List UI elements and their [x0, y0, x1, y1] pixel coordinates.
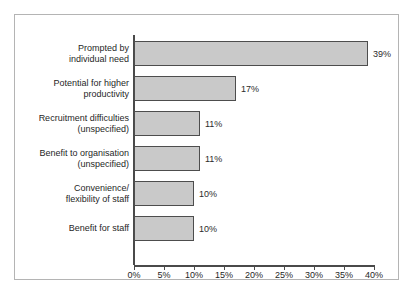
bar-row: 11% — [134, 146, 374, 171]
category-label: Benefit to organisation(unspecified) — [17, 148, 129, 169]
bar-row: 39% — [134, 41, 374, 66]
category-label-line: Potential for higher — [17, 78, 129, 89]
category-label-line: Recruitment difficulties — [17, 113, 129, 124]
bar-value-label: 11% — [205, 119, 222, 128]
category-label-line: Prompted by — [17, 43, 129, 54]
axis-tick-label: 30% — [305, 271, 323, 280]
bar[interactable] — [134, 216, 194, 241]
bar-value-label: 10% — [199, 224, 217, 233]
category-label-line: productivity — [17, 89, 129, 100]
axis-tick-label: 10% — [185, 271, 203, 280]
axis-tick-label: 35% — [335, 271, 353, 280]
axis-tick-label: 25% — [275, 271, 293, 280]
category-label-line: Benefit for staff — [17, 223, 129, 234]
bar-value-label: 17% — [241, 84, 259, 93]
page-bleed-text — [0, 288, 415, 299]
bar[interactable] — [134, 181, 194, 206]
axis-tick-label: 5% — [157, 271, 170, 280]
category-label-line: (unspecified) — [17, 159, 129, 170]
category-label-line: (unspecified) — [17, 124, 129, 135]
category-label-line: individual need — [17, 54, 129, 65]
plot-area: 39%17%11%11%10%10% — [134, 35, 374, 263]
bar-row: 17% — [134, 76, 374, 101]
category-label-line: Benefit to organisation — [17, 148, 129, 159]
category-axis-labels: Prompted byindividual needPotential for … — [15, 35, 129, 263]
bar-row: 10% — [134, 216, 374, 241]
axis-tick-label: 20% — [245, 271, 263, 280]
bar-value-label: 10% — [199, 189, 217, 198]
category-label: Recruitment difficulties(unspecified) — [17, 113, 129, 134]
axis-tick-label: 15% — [215, 271, 233, 280]
bar-value-label: 39% — [373, 49, 391, 58]
category-label: Prompted byindividual need — [17, 43, 129, 64]
bar[interactable] — [134, 41, 368, 66]
bar[interactable] — [134, 111, 200, 136]
bar-value-label: 11% — [205, 154, 222, 163]
category-label-line: flexibility of staff — [17, 194, 129, 205]
bar-row: 11% — [134, 111, 374, 136]
bar[interactable] — [134, 146, 200, 171]
category-label: Convenience/flexibility of staff — [17, 183, 129, 204]
chart-frame: Prompted byindividual needPotential for … — [14, 14, 399, 280]
bar[interactable] — [134, 76, 236, 101]
category-label: Benefit for staff — [17, 223, 129, 234]
category-label-line: Convenience/ — [17, 183, 129, 194]
bar-row: 10% — [134, 181, 374, 206]
axis-tick-label: 0% — [127, 271, 140, 280]
axis-tick-label: 40% — [365, 271, 383, 280]
category-label: Potential for higherproductivity — [17, 78, 129, 99]
